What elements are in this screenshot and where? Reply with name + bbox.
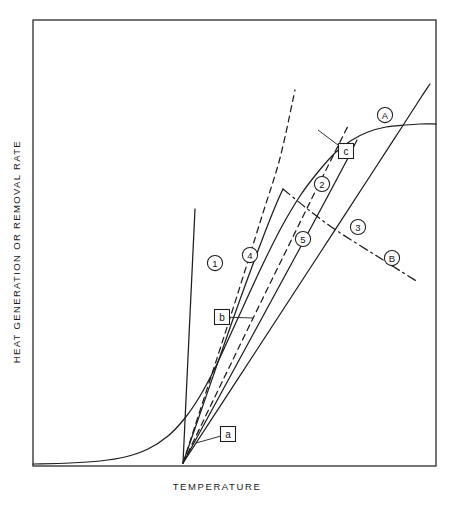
circled-label-B: B bbox=[384, 250, 399, 265]
circled-label-5: 5 bbox=[295, 231, 310, 246]
label-text: 2 bbox=[319, 179, 324, 190]
label-text: A bbox=[382, 110, 389, 121]
chart-curves bbox=[33, 84, 436, 464]
circled-labels: 14523AB bbox=[207, 107, 399, 270]
curve-A bbox=[33, 124, 436, 464]
boxed-label-a: a bbox=[221, 427, 236, 442]
curve-4 bbox=[183, 90, 295, 463]
circled-label-A: A bbox=[377, 107, 392, 122]
x-axis-label-text: TEMPERATURE bbox=[173, 481, 262, 492]
label-text: 3 bbox=[355, 222, 360, 233]
label-text: a bbox=[225, 429, 231, 440]
circled-label-1: 1 bbox=[207, 255, 222, 270]
circled-label-2: 2 bbox=[314, 176, 329, 191]
circled-label-4: 4 bbox=[242, 247, 257, 262]
label-text: c bbox=[344, 146, 349, 157]
label-text: b bbox=[219, 312, 225, 323]
curve-1 bbox=[183, 209, 195, 463]
label-text: B bbox=[389, 253, 395, 264]
curve-2 bbox=[183, 189, 283, 463]
plot-border bbox=[33, 20, 436, 466]
y-axis-label: HEAT GENERATION OR REMOVAL RATE bbox=[6, 112, 26, 392]
x-axis-label: TEMPERATURE bbox=[0, 481, 452, 492]
circled-label-3: 3 bbox=[350, 219, 365, 234]
curve-c-tangent bbox=[183, 140, 357, 463]
curve-3 bbox=[183, 84, 430, 463]
heat-generation-removal-chart: 14523AB abc bbox=[0, 0, 452, 505]
label-text: 4 bbox=[247, 250, 252, 261]
boxed-label-b: b bbox=[215, 310, 230, 325]
y-axis-label-text: HEAT GENERATION OR REMOVAL RATE bbox=[11, 140, 22, 363]
label-text: 5 bbox=[300, 234, 305, 245]
chart-frame bbox=[33, 20, 436, 466]
boxed-label-c: c bbox=[339, 144, 354, 159]
label-text: 1 bbox=[212, 258, 217, 269]
